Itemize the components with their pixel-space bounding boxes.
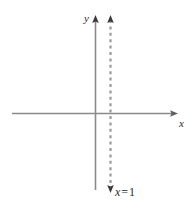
coordinate-plane-svg — [0, 0, 193, 207]
x-axis-label: x — [179, 118, 184, 129]
graph-figure: y x x=1 — [0, 0, 193, 207]
y-axis-label: y — [84, 13, 89, 24]
line-equation-label: x=1 — [115, 186, 135, 198]
dashed-line-arrowhead-bottom — [107, 185, 114, 193]
line-equation-operator: = — [120, 185, 129, 199]
line-equation-value: 1 — [129, 185, 135, 199]
